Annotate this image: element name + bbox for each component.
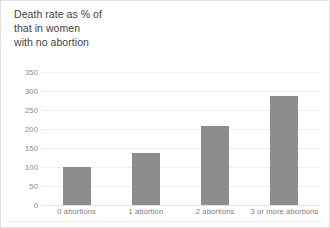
y-tick-label: 350 xyxy=(25,68,38,77)
x-tick-label: 1 abortion xyxy=(128,207,163,216)
y-tick-label: 300 xyxy=(25,87,38,96)
bar-chart-card: Death rate as % of that in women with no… xyxy=(0,0,330,228)
card-bottom-rule xyxy=(8,221,322,222)
bar xyxy=(63,167,91,205)
y-tick-label: 150 xyxy=(25,144,38,153)
x-axis-line xyxy=(42,205,319,206)
y-tick-label: 50 xyxy=(29,182,38,191)
bar xyxy=(270,96,298,205)
y-tick-label: 200 xyxy=(25,125,38,134)
chart-title: Death rate as % of that in women with no… xyxy=(14,7,204,50)
x-tick-label: 3 or more abortions xyxy=(251,207,319,216)
bar xyxy=(132,153,160,205)
y-axis-tick-labels: 050100150200250300350 xyxy=(1,72,38,205)
x-tick-label: 2 abortions xyxy=(196,207,235,216)
y-tick-label: 100 xyxy=(25,163,38,172)
y-tick-label: 0 xyxy=(34,201,38,210)
bar xyxy=(201,126,229,205)
x-tick-label: 0 abortions xyxy=(57,207,96,216)
x-axis-tick-labels: 0 abortions1 abortion2 abortions3 or mor… xyxy=(42,207,319,221)
bar-series xyxy=(42,72,319,205)
y-tick-label: 250 xyxy=(25,106,38,115)
